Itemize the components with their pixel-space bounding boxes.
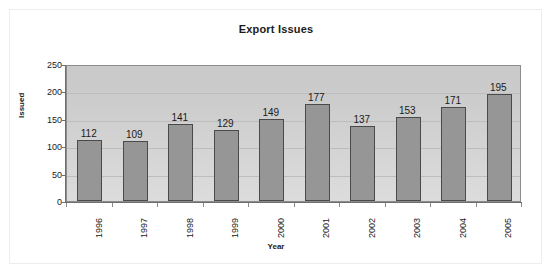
- x-tick-label: 2001: [321, 218, 331, 238]
- bar-value-label: 153: [392, 105, 422, 116]
- chart-title: Export Issues: [0, 23, 552, 35]
- bar: [487, 94, 512, 201]
- bar-value-label: 141: [165, 112, 195, 123]
- y-axis-title: Issued: [17, 93, 26, 118]
- x-tick-mark: [112, 203, 113, 207]
- x-tick-label: 2002: [367, 218, 377, 238]
- bar: [305, 104, 330, 201]
- y-tick-mark: [62, 175, 66, 176]
- bar: [259, 119, 284, 201]
- y-tick-mark: [62, 65, 66, 66]
- y-tick-label: 200: [34, 88, 62, 97]
- bar: [123, 141, 148, 201]
- bar-value-label: 109: [119, 129, 149, 140]
- bar-value-label: 112: [74, 128, 104, 139]
- x-tick-label: 2005: [503, 218, 513, 238]
- x-tick-label: 2003: [412, 218, 422, 238]
- x-tick-mark: [430, 203, 431, 207]
- x-tick-mark: [294, 203, 295, 207]
- y-tick-label: 150: [34, 116, 62, 125]
- bar-value-label: 137: [347, 114, 377, 125]
- x-tick-mark: [385, 203, 386, 207]
- y-tick-mark: [62, 92, 66, 93]
- x-tick-mark: [339, 203, 340, 207]
- y-tick-label: 50: [34, 171, 62, 180]
- y-axis-line: [65, 65, 66, 203]
- y-axis-tick-labels: 050100150200250: [30, 0, 62, 274]
- x-tick-mark: [203, 203, 204, 207]
- bar-value-label: 149: [256, 107, 286, 118]
- y-tick-label: 100: [34, 143, 62, 152]
- x-tick-mark: [66, 203, 67, 207]
- x-tick-label: 2000: [276, 218, 286, 238]
- x-tick-mark: [476, 203, 477, 207]
- x-tick-mark: [248, 203, 249, 207]
- bar-value-label: 129: [210, 118, 240, 129]
- bar: [77, 140, 102, 201]
- x-tick-label: 1997: [139, 218, 149, 238]
- bar: [214, 130, 239, 201]
- y-tick-mark: [62, 120, 66, 121]
- x-tick-mark: [521, 203, 522, 207]
- x-tick-label: 1996: [94, 218, 104, 238]
- y-tick-label: 0: [34, 198, 62, 207]
- x-tick-label: 2004: [458, 218, 468, 238]
- bar: [396, 117, 421, 201]
- bar: [350, 126, 375, 201]
- x-tick-label: 1999: [230, 218, 240, 238]
- y-tick-mark: [62, 147, 66, 148]
- bar: [168, 124, 193, 201]
- bar-value-label: 195: [483, 82, 513, 93]
- bar-value-label: 171: [438, 95, 468, 106]
- gridline: [67, 93, 520, 94]
- y-tick-label: 250: [34, 61, 62, 70]
- x-tick-label: 1998: [185, 218, 195, 238]
- chart-screenshot: Export Issues 050100150200250 Issued 199…: [0, 0, 552, 274]
- x-tick-mark: [157, 203, 158, 207]
- bar-value-label: 177: [301, 92, 331, 103]
- x-axis-title: Year: [0, 242, 552, 251]
- bar: [441, 107, 466, 201]
